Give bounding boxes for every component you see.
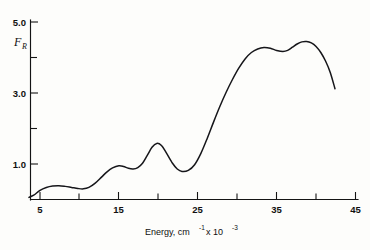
x-axis-ticks (40, 192, 356, 200)
y-tick-label-3: 3.0 (13, 88, 26, 99)
x-axis-title-lead: Energy, cm (145, 227, 190, 237)
x-tick-label-45: 45 (350, 204, 361, 215)
x-axis-title-exponent-2: -3 (232, 224, 238, 231)
x-tick-label-15: 15 (113, 204, 124, 215)
figure-container: 5.0 3.0 1.0 F R 5 15 25 35 45 Energy, cm (0, 0, 370, 250)
data-curve-fr (29, 41, 335, 197)
x-tick-label-5: 5 (37, 204, 43, 215)
x-axis-title-exponent-1: -1 (199, 224, 205, 231)
y-tick-label-5: 5.0 (13, 17, 26, 28)
x-tick-label-25: 25 (192, 204, 203, 215)
y-axis-ticks (31, 22, 39, 164)
chart-canvas: 5.0 3.0 1.0 F R 5 15 25 35 45 Energy, cm (0, 0, 370, 250)
x-axis-title-mid: x 10 (206, 227, 223, 237)
y-axis-title: F R (13, 35, 27, 51)
y-axis-title-subscript: R (21, 42, 27, 51)
y-tick-label-1: 1.0 (13, 159, 26, 170)
x-axis-title: Energy, cm -1 x 10 -3 (145, 224, 238, 237)
x-tick-label-35: 35 (271, 204, 282, 215)
y-axis-title-base: F (13, 35, 22, 49)
